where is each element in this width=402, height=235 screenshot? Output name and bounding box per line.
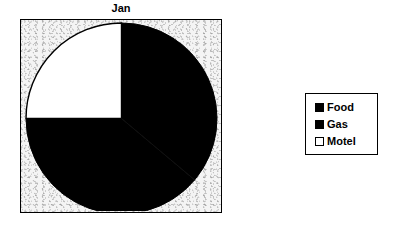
legend-item-food[interactable]: Food — [315, 99, 377, 116]
chart-legend: Food Gas Motel — [305, 93, 378, 155]
legend-item-motel[interactable]: Motel — [315, 133, 377, 150]
legend-swatch-food — [315, 103, 324, 112]
legend-label-food: Food — [327, 102, 354, 113]
chart-screenshot: Jan Food Gas Motel — [0, 0, 402, 235]
legend-swatch-gas — [315, 120, 324, 129]
legend-label-gas: Gas — [327, 119, 348, 130]
plot-area — [20, 19, 222, 213]
pie-slice-motel[interactable] — [26, 23, 122, 119]
legend-swatch-motel — [315, 137, 324, 146]
legend-label-motel: Motel — [327, 136, 356, 147]
legend-item-gas[interactable]: Gas — [315, 116, 377, 133]
pie-chart — [21, 20, 220, 211]
chart-title: Jan — [20, 1, 222, 16]
